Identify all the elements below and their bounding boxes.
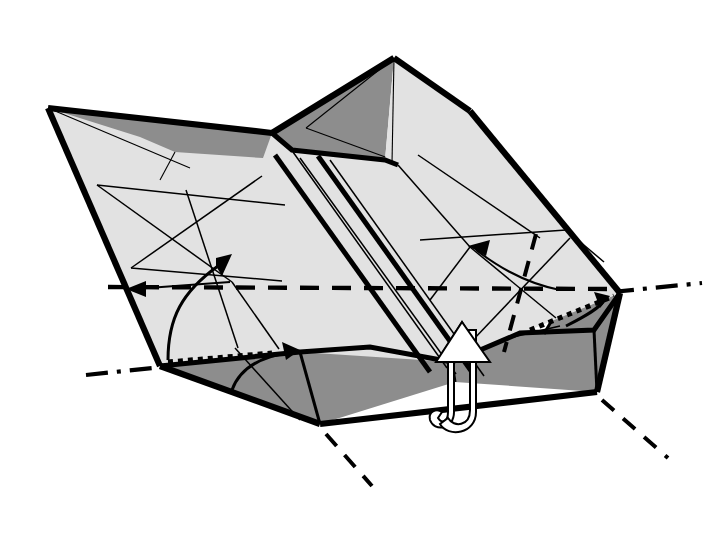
origami-diagram-canvas	[0, 0, 724, 545]
right-rotation-axis	[612, 283, 702, 292]
origami-illustration	[0, 0, 724, 545]
left-rotation-axis	[86, 366, 172, 375]
bottom-hidden-axis	[326, 434, 372, 486]
bottom-right-hidden-axis	[602, 400, 668, 458]
peak-left-face	[272, 58, 394, 160]
